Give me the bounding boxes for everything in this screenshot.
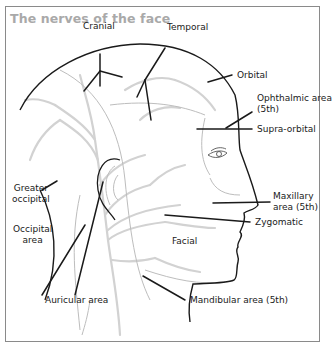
label-greater-occipital: Greater occipital (12, 183, 50, 205)
label-facial: Facial (172, 236, 197, 247)
label-occipital-area-line1: Occipital (13, 224, 52, 235)
label-supra-orbital: Supra-orbital (257, 124, 316, 135)
label-greater-occipital-line2: occipital (12, 194, 50, 205)
label-maxillary-line1: Maxillary (273, 191, 318, 202)
label-occipital-area: Occipital area (13, 224, 52, 246)
label-temporal: Temporal (167, 22, 208, 33)
label-cranial: Cranial (83, 21, 115, 32)
label-ophthalmic-area: Ophthalmic area (5th) (257, 93, 332, 115)
label-auricular-area: Auricular area (45, 295, 108, 306)
label-mandibular-area: Mandibular area (5th) (190, 295, 288, 306)
label-maxillary-area: Maxillary area (5th) (273, 191, 318, 213)
eye-icon (208, 148, 227, 158)
label-occipital-area-line2: area (13, 235, 52, 246)
label-maxillary-line2: area (5th) (273, 202, 318, 213)
label-zygomatic: Zygomatic (255, 217, 303, 228)
label-orbital: Orbital (237, 70, 268, 81)
label-greater-occipital-line1: Greater (12, 183, 50, 194)
leader-lines (42, 48, 270, 300)
head-outline (20, 44, 258, 322)
label-ophthalmic-line2: (5th) (257, 104, 332, 115)
label-ophthalmic-line1: Ophthalmic area (257, 93, 332, 104)
